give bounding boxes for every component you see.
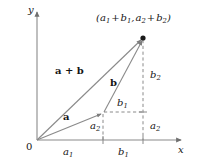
segment-b1-axis-label: b1	[118, 147, 129, 157]
resultant-endpoint-dot	[140, 35, 145, 40]
y-axis-label: y	[28, 5, 34, 15]
terminal-point-a2-sub: 2	[141, 17, 145, 25]
terminal-point-b2-base: b	[156, 12, 162, 23]
dashed-lines-group	[103, 40, 143, 140]
segment-b1-dashed-label: b1	[117, 98, 128, 108]
vector-b-label: b	[110, 78, 117, 88]
vector-a-label: a	[63, 112, 69, 122]
terminal-point-plus-2: +	[147, 12, 155, 23]
tick-marks-group	[103, 112, 147, 144]
segment-a1-label: a1	[63, 147, 73, 157]
segment-b1-axis-sub: 1	[124, 151, 128, 159]
terminal-point-b2-sub: 2	[163, 17, 167, 25]
origin-label: 0	[26, 142, 32, 152]
vector-addition-figure: y x 0 (a1 + b1, a2 + b2) a + b a b a1 b1…	[0, 0, 197, 167]
terminal-point-label: (a1 + b1, a2 + b2)	[96, 13, 171, 23]
vector-sum-label: a + b	[55, 66, 84, 76]
segment-b1-dashed-sub: 1	[123, 102, 127, 110]
x-axis-label: x	[178, 145, 184, 155]
segment-a2-right-sub: 2	[156, 125, 160, 133]
segment-b2-right-label: b2	[150, 70, 161, 80]
segment-a1-sub: 1	[69, 151, 73, 159]
segment-a2-middle-label: a2	[90, 121, 100, 131]
segment-b2-right-sub: 2	[156, 74, 160, 82]
segment-a2-right-label: a2	[150, 121, 160, 131]
terminal-point-b1-sub: 1	[127, 17, 131, 25]
terminal-point-comma: ,	[131, 12, 134, 23]
vector-a-plus-b-arrow	[37, 40, 141, 140]
terminal-point-a1-base: a	[100, 12, 106, 23]
terminal-point-plus-1: +	[111, 12, 119, 23]
segment-a2-middle-sub: 2	[96, 125, 100, 133]
terminal-point-a1-sub: 1	[106, 17, 110, 25]
